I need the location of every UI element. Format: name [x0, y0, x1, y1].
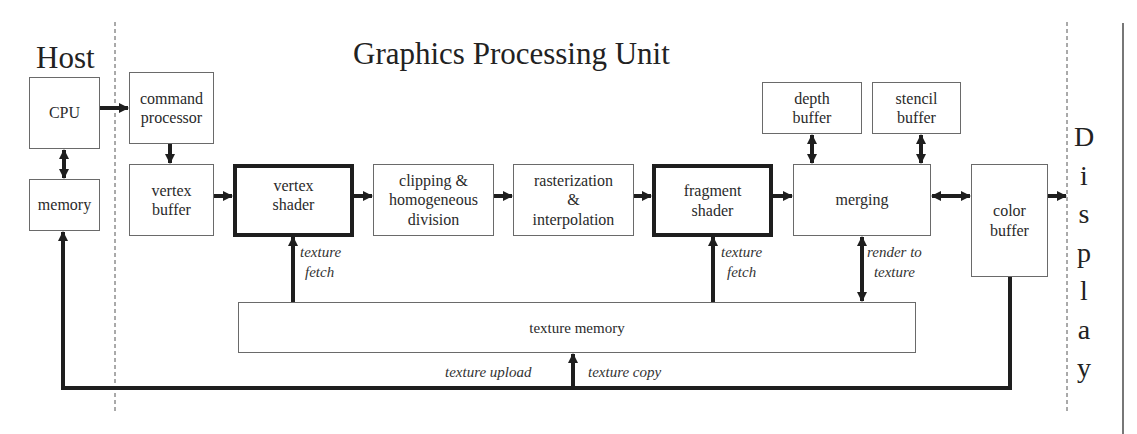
- stencil-buffer-label-2: buffer: [897, 108, 936, 127]
- rasterization-label-3: interpolation: [533, 210, 615, 229]
- vertex-shader-label-1: vertex: [274, 176, 314, 195]
- display-letter-l: l: [1071, 272, 1097, 311]
- render-to-texture-label-1: render to: [867, 243, 922, 263]
- render-to-texture-label: render to texture: [867, 243, 922, 282]
- rasterization-label-1: rasterization: [534, 171, 613, 190]
- merging-box: merging: [793, 164, 931, 236]
- display-letter-y: y: [1071, 349, 1097, 388]
- color-buffer-label-2: buffer: [990, 221, 1029, 240]
- vertex-texture-fetch-label: texture fetch: [300, 243, 341, 282]
- host-memory-box: memory: [29, 179, 100, 231]
- display-letter-i: i: [1071, 157, 1097, 196]
- fragment-shader-label-1: fragment: [684, 181, 742, 200]
- cpu-box: CPU: [29, 77, 100, 149]
- gpu-title: Graphics Processing Unit: [353, 36, 670, 72]
- texture-memory-label: texture memory: [529, 319, 624, 337]
- color-buffer-label-1: color: [993, 201, 1026, 220]
- display-letter-d: D: [1071, 118, 1097, 157]
- fragment-texture-fetch-label: texture fetch: [721, 243, 762, 282]
- clipping-label-3: division: [408, 210, 460, 229]
- texture-upload-label: texture upload: [445, 363, 532, 383]
- cpu-label: CPU: [49, 103, 80, 122]
- vertex-buffer-label-1: vertex: [152, 181, 192, 200]
- display-letter-s: s: [1071, 195, 1097, 234]
- depth-buffer-box: depth buffer: [762, 82, 862, 134]
- display-title: D i s p l a y: [1071, 118, 1097, 388]
- command-processor-box: command processor: [129, 72, 214, 144]
- clipping-label-2: homogeneous: [389, 190, 478, 209]
- vertex-buffer-box: vertex buffer: [129, 164, 214, 236]
- display-letter-p: p: [1071, 234, 1097, 273]
- command-processor-label-2: processor: [141, 108, 202, 127]
- host-title: Host: [36, 40, 95, 76]
- fragment-shader-box: fragment shader: [652, 164, 773, 237]
- depth-buffer-label-1: depth: [794, 89, 830, 108]
- depth-buffer-label-2: buffer: [793, 108, 832, 127]
- vertex-buffer-label-2: buffer: [152, 200, 191, 219]
- fragment-texture-fetch-label-2: fetch: [721, 263, 762, 283]
- display-letter-a: a: [1071, 311, 1097, 350]
- vertex-shader-box: vertex shader: [233, 164, 354, 237]
- rasterization-label-2: &: [567, 190, 579, 209]
- render-to-texture-label-2: texture: [867, 263, 922, 283]
- host-memory-label: memory: [38, 195, 91, 214]
- stencil-buffer-label-1: stencil: [896, 89, 938, 108]
- texture-memory-box: texture memory: [238, 302, 916, 353]
- stencil-buffer-box: stencil buffer: [872, 82, 961, 134]
- rasterization-box: rasterization & interpolation: [513, 164, 634, 236]
- clipping-label-1: clipping &: [399, 171, 468, 190]
- color-buffer-box: color buffer: [971, 164, 1048, 277]
- command-processor-label-1: command: [140, 89, 203, 108]
- texture-copy-label: texture copy: [588, 363, 661, 383]
- merging-label: merging: [835, 190, 888, 209]
- fragment-shader-label-2: shader: [692, 201, 734, 220]
- fragment-texture-fetch-label-1: texture: [721, 243, 762, 263]
- vertex-texture-fetch-label-1: texture: [300, 243, 341, 263]
- clipping-box: clipping & homogeneous division: [373, 164, 494, 236]
- vertex-texture-fetch-label-2: fetch: [300, 263, 341, 283]
- vertex-shader-label-2: shader: [273, 195, 315, 214]
